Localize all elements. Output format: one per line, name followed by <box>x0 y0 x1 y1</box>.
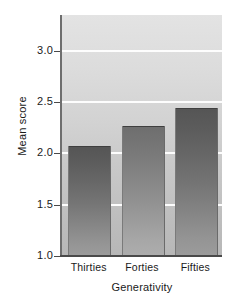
x-axis-title: Generativity <box>62 281 222 293</box>
bar <box>175 108 218 256</box>
gridline <box>62 50 222 52</box>
y-axis-tick-label: 1.5 <box>25 198 53 210</box>
x-axis-tick-label: Fifties <box>155 261 235 273</box>
bar-top-edge <box>69 146 110 147</box>
bar <box>68 146 111 256</box>
bar-top-edge <box>176 108 217 109</box>
y-axis-tick-labels: 1.01.52.02.53.0 <box>25 0 53 303</box>
y-axis-tick-label: 1.0 <box>25 249 53 261</box>
y-axis-tick-label: 2.0 <box>25 146 53 158</box>
plot-area <box>62 15 222 256</box>
x-axis-tick-labels: ThirtiesFortiesFifties <box>62 261 222 277</box>
x-axis-spine <box>60 255 222 257</box>
y-axis-tick-label: 2.5 <box>25 95 53 107</box>
y-axis-tick-label: 3.0 <box>25 44 53 56</box>
bar-top-edge <box>123 126 164 127</box>
bar <box>122 126 165 256</box>
gridline <box>62 101 222 103</box>
bar-chart-figure: Mean score 1.01.52.02.53.0 ThirtiesForti… <box>0 0 239 303</box>
